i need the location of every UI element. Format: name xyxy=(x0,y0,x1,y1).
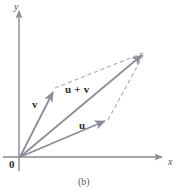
vector-u-label: u xyxy=(79,120,85,131)
vectors-group xyxy=(20,55,142,157)
figure-caption: (b) xyxy=(78,177,90,187)
x-axis-label: x xyxy=(168,157,172,167)
vector-u-plus-v-label: u + v xyxy=(65,84,89,95)
vector-addition-figure: y x 0 v u u + v (b) xyxy=(0,0,177,189)
origin-label: 0 xyxy=(9,159,15,170)
dashed-edge-u-to-resultant xyxy=(108,54,144,120)
vector-v-label: v xyxy=(32,99,38,110)
y-axis-label: y xyxy=(14,2,18,12)
vector-u-plus-v-arrow xyxy=(20,55,142,157)
vector-u-arrow xyxy=(20,121,105,157)
